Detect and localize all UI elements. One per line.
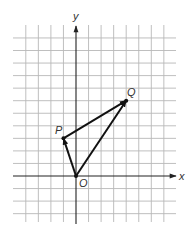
point-o [74, 174, 78, 178]
y-axis-label: y [72, 10, 80, 22]
vector-op [63, 138, 76, 176]
point-label-q: Q [127, 86, 136, 98]
grid [13, 25, 176, 222]
point-p [61, 136, 65, 140]
vector-pq [63, 101, 126, 139]
vector-diagram: x y O P Q [0, 0, 192, 235]
point-label-o: O [79, 177, 88, 189]
point-q [124, 99, 128, 103]
point-label-p: P [55, 124, 63, 136]
x-axis-label: x [178, 170, 185, 182]
